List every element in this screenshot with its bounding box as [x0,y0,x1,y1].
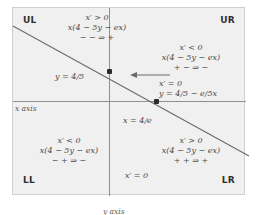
region-sign-upper-left: x′ > 0 [49,13,145,23]
region-expression-upper-left: x(4 − 5y − ex) [49,23,145,33]
region-expression-lower-left: x(4 − 5y − ex) [19,146,119,156]
region-signs-upper-left: − − ⇒ + [49,33,145,43]
nullcline-equation-label: y = 4/5 − e/5x [159,89,217,99]
region-signs-lower-right: + + ⇒ + [139,156,243,166]
region-annotation-lower-right: x′ > 0 x(4 − 5y − ex) + + ⇒ + [139,136,243,166]
quadrant-label-lower-right: LR [222,175,235,186]
nullcline-annotation: x′ = 0 y = 4/5 − e/5x [159,79,217,99]
y-axis-nullcline-label: x′ = 0 [125,171,148,181]
region-annotation-upper-left: x′ > 0 x(4 − 5y − ex) − − ⇒ + [49,13,145,43]
region-annotation-upper-right: x′ < 0 x(4 − 5y − ex) + − ⇒ − [143,43,239,73]
quadrant-label-upper-right: UR [220,15,235,26]
x-intercept-label: x = 4/e [123,116,152,126]
region-sign-lower-right: x′ > 0 [139,136,243,146]
region-signs-lower-left: − + ⇒ − [19,156,119,166]
region-sign-lower-left: x′ < 0 [19,136,119,146]
region-signs-upper-right: + − ⇒ − [143,63,239,73]
nullcline-sign-label: x′ = 0 [159,79,217,89]
y-intercept-point [107,69,112,74]
region-expression-upper-right: x(4 − 5y − ex) [143,53,239,63]
region-expression-lower-right: x(4 − 5y − ex) [139,146,243,156]
y-intercept-label: y = 4/5 [55,72,84,82]
x-axis-label: x axis [15,104,37,113]
quadrant-label-lower-left: LL [23,175,35,186]
y-axis-label: y axis [103,207,125,215]
region-sign-upper-right: x′ < 0 [143,43,239,53]
region-annotation-lower-left: x′ < 0 x(4 − 5y − ex) − + ⇒ − [19,136,119,166]
quadrant-label-upper-left: UL [23,15,37,26]
phase-plane-plot: UL UR LL LR x′ > 0 x(4 − 5y − ex) − − ⇒ … [12,7,245,195]
x-intercept-point [154,99,159,104]
